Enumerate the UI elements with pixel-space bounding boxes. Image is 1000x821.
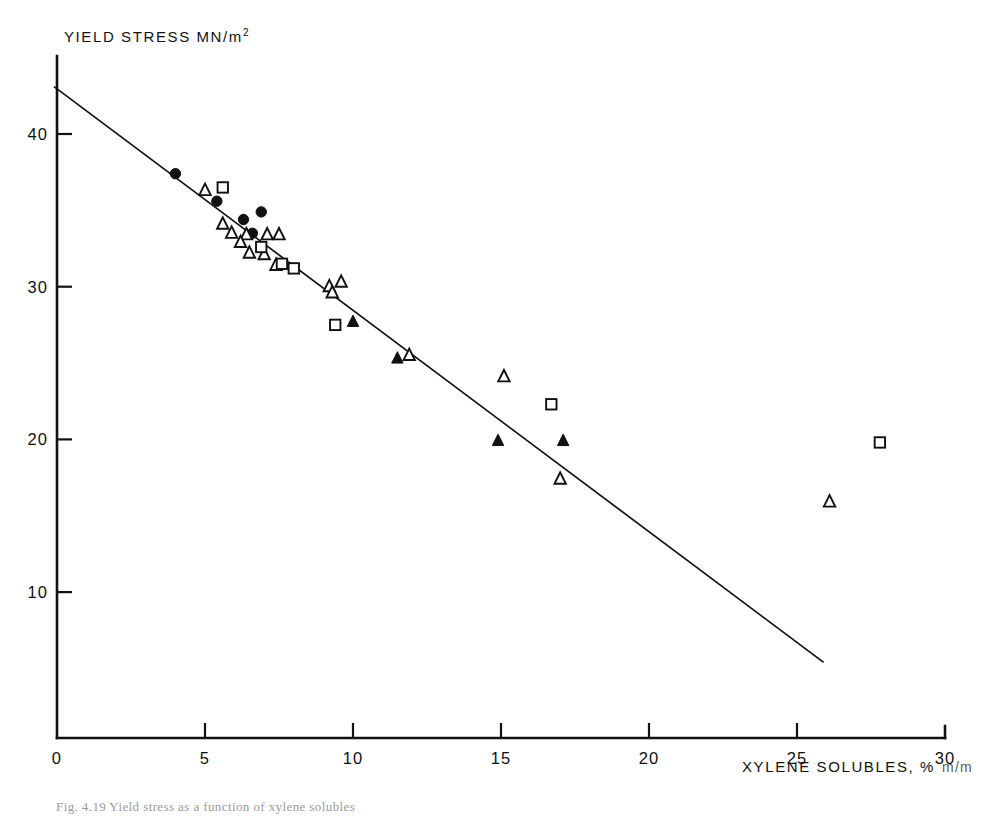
marker-open-square: [546, 399, 556, 409]
y-tick-label: 20: [27, 430, 48, 448]
marker-filled-triangle: [557, 434, 568, 445]
marker-filled-circle: [170, 169, 180, 179]
series-open-triangle: [199, 184, 835, 507]
data-markers: [170, 169, 885, 507]
x-tick-label: 15: [491, 749, 512, 767]
marker-filled-circle: [238, 214, 248, 224]
marker-filled-circle: [256, 207, 266, 217]
x-tick-label: 10: [343, 749, 364, 767]
x-tick-label: 0: [52, 749, 62, 767]
y-tick-group: 10203040: [27, 125, 72, 601]
series-open-square: [218, 182, 886, 447]
marker-open-square: [289, 263, 299, 273]
marker-open-square: [330, 320, 340, 330]
marker-filled-triangle: [392, 352, 403, 363]
x-tick-label: 20: [639, 749, 660, 767]
scatter-plot: 10203040 051015202530 YIELD STRESS MN/m2…: [0, 0, 1000, 821]
trend-line: [54, 87, 824, 663]
marker-open-square: [277, 259, 287, 269]
marker-open-triangle: [498, 370, 509, 381]
marker-filled-triangle: [347, 315, 358, 326]
marker-filled-circle: [212, 196, 222, 206]
figure-caption: Fig. 4.19 Yield stress as a function of …: [56, 799, 355, 815]
marker-open-triangle: [199, 184, 210, 195]
marker-open-triangle: [244, 246, 255, 257]
marker-open-triangle: [824, 495, 835, 506]
marker-open-triangle: [217, 217, 228, 228]
marker-open-square: [875, 437, 885, 447]
marker-open-triangle: [335, 275, 346, 286]
y-axis-title: YIELD STRESS MN/m2: [64, 27, 250, 45]
y-tick-label: 30: [27, 278, 48, 296]
marker-open-triangle: [273, 228, 284, 239]
y-tick-label: 40: [27, 125, 48, 143]
figure-container: 10203040 051015202530 YIELD STRESS MN/m2…: [0, 0, 1000, 821]
marker-open-triangle: [555, 472, 566, 483]
marker-open-square: [218, 182, 228, 192]
marker-open-square: [256, 242, 266, 252]
x-tick-label: 5: [200, 749, 210, 767]
series-filled-triangle: [347, 315, 569, 446]
y-tick-label: 10: [27, 583, 48, 601]
marker-filled-triangle: [492, 434, 503, 445]
marker-open-triangle: [261, 228, 272, 239]
